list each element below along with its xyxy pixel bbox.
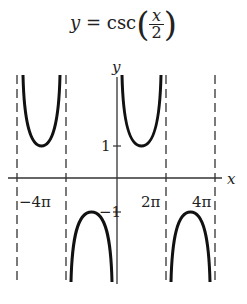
branch-2 [71, 212, 112, 282]
branch-1 [23, 75, 60, 146]
x-tick-label-4pi: 4π [192, 193, 212, 211]
x-tick-label-neg4pi: −4π [19, 193, 51, 211]
x-axis-label: x [227, 170, 236, 188]
x-tick-label-2pi: 2π [141, 193, 161, 211]
y-axis-label: y [111, 58, 121, 76]
branch-4 [171, 212, 210, 282]
y-tick-label-1: 1 [101, 137, 111, 155]
plot-area: y x 1 −1 −4π 2π 4π [0, 0, 247, 304]
branch-3 [122, 75, 161, 146]
y-tick-label-neg1: −1 [99, 203, 121, 221]
